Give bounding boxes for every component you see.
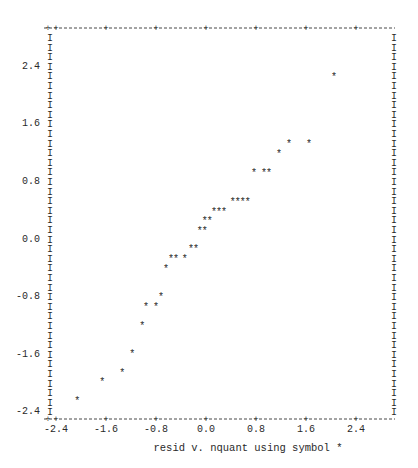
x-tick-label: 0.8 bbox=[247, 424, 265, 435]
data-point: * bbox=[119, 368, 125, 379]
left-axis-i-marks: IIIIIIIIIIIIIIIIIIIIIIIIIIIIIIIIIIIIIIII bbox=[47, 33, 53, 418]
y-tick-label: -2.4 bbox=[16, 406, 40, 417]
data-point: * bbox=[331, 72, 337, 83]
data-point: * bbox=[99, 377, 105, 388]
y-tick-label: 0.8 bbox=[22, 176, 40, 187]
data-point: * bbox=[139, 321, 145, 332]
y-tick-label: -1.6 bbox=[16, 349, 40, 360]
top-tick-mark: + bbox=[53, 24, 58, 34]
x-tick-label: 1.6 bbox=[297, 424, 315, 435]
data-point: * bbox=[143, 302, 149, 313]
data-point: * bbox=[276, 149, 282, 160]
data-point: * bbox=[182, 254, 188, 265]
chart-caption: resid v. nquant using symbol * bbox=[153, 442, 342, 454]
svg-text:I: I bbox=[391, 407, 397, 418]
x-tick-label: 2.4 bbox=[347, 424, 365, 435]
y-axis-tick-labels: 2.41.60.80.0-0.8-1.6-2.4 bbox=[16, 61, 40, 417]
data-point: * bbox=[153, 302, 159, 313]
top-tick-mark: + bbox=[153, 24, 158, 34]
residual-quantile-plot: ++++++++++++++++ IIIIIIIIIIIIIIIIIIIIIII… bbox=[0, 0, 418, 468]
data-point: * bbox=[173, 254, 179, 265]
data-point: * bbox=[74, 396, 80, 407]
x-tick-label: -2.4 bbox=[44, 424, 68, 435]
svg-text:I: I bbox=[47, 407, 53, 418]
data-point: * bbox=[286, 139, 292, 150]
plot-frame: ++++++++++++++++ bbox=[44, 24, 395, 425]
data-point: * bbox=[221, 207, 227, 218]
data-point: * bbox=[245, 197, 251, 208]
y-tick-label: 0.0 bbox=[22, 234, 40, 245]
data-point: * bbox=[163, 264, 169, 275]
top-tick-mark: + bbox=[203, 24, 208, 34]
data-point: * bbox=[129, 349, 135, 360]
data-points: ******************************** bbox=[74, 72, 337, 407]
top-tick-mark: + bbox=[253, 24, 258, 34]
x-tick-label: -0.8 bbox=[144, 424, 168, 435]
y-tick-label: 2.4 bbox=[22, 61, 40, 72]
y-tick-label: -0.8 bbox=[16, 291, 40, 302]
top-tick-mark: + bbox=[303, 24, 308, 34]
x-axis-tick-labels: -2.4-1.6-0.80.00.81.62.4 bbox=[44, 424, 365, 435]
y-tick-label: 1.6 bbox=[22, 118, 40, 129]
x-tick-label: -1.6 bbox=[94, 424, 118, 435]
data-point: * bbox=[306, 139, 312, 150]
data-point: * bbox=[266, 168, 272, 179]
top-tick-mark: + bbox=[103, 24, 108, 34]
data-point: * bbox=[193, 244, 199, 255]
right-axis-i-marks: IIIIIIIIIIIIIIIIIIIIIIIIIIIIIIIIIIIIIIII bbox=[391, 33, 397, 418]
data-point: * bbox=[158, 292, 164, 303]
top-tick-mark: + bbox=[353, 24, 358, 34]
x-tick-label: 0.0 bbox=[197, 424, 215, 435]
data-point: * bbox=[251, 168, 257, 179]
